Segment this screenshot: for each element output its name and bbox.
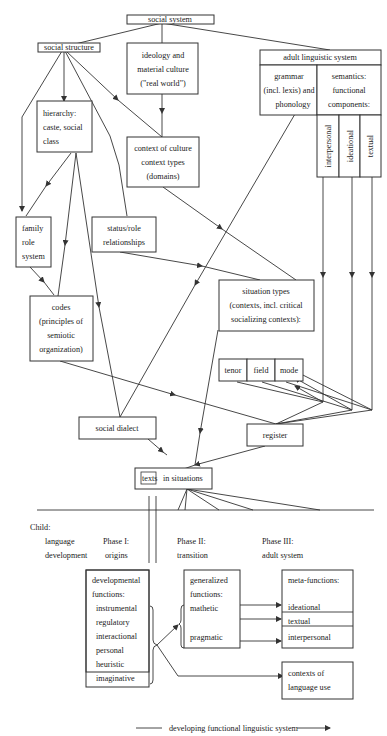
- svg-text:components:: components:: [328, 100, 370, 109]
- svg-text:imaginative: imaginative: [96, 674, 135, 683]
- svg-text:(incl. lexis) and: (incl. lexis) and: [263, 86, 314, 95]
- svg-text:("real world"): ("real world"): [140, 79, 186, 88]
- svg-text:(domains): (domains): [146, 172, 179, 181]
- svg-text:social structure: social structure: [44, 43, 94, 52]
- node-social-system: social system: [127, 15, 214, 24]
- node-generalized-functions: generalized functions: mathetic pragmati…: [184, 570, 240, 648]
- svg-text:transition: transition: [177, 551, 208, 560]
- svg-text:language use: language use: [288, 683, 331, 692]
- svg-text:functional: functional: [332, 86, 366, 95]
- svg-text:heuristic: heuristic: [96, 660, 125, 669]
- svg-text:pragmatic: pragmatic: [190, 633, 223, 642]
- svg-text:ideology and: ideology and: [142, 51, 185, 60]
- svg-text:material culture: material culture: [137, 65, 189, 74]
- svg-text:interpersonal: interpersonal: [288, 633, 331, 642]
- svg-text:language: language: [45, 537, 75, 546]
- node-meta-functions: meta-functions: ideational textual inter…: [282, 570, 353, 648]
- node-developmental-functions: developmental functions: instrumental re…: [86, 570, 149, 683]
- svg-text:organization): organization): [39, 345, 83, 354]
- svg-text:situation types: situation types: [242, 287, 290, 296]
- svg-text:hierarchy:: hierarchy:: [43, 109, 76, 118]
- svg-text:class: class: [43, 137, 59, 146]
- svg-text:semantics:: semantics:: [332, 72, 367, 81]
- svg-text:role: role: [22, 238, 35, 247]
- svg-text:texts: texts: [142, 474, 157, 483]
- svg-text:interactional: interactional: [96, 632, 138, 641]
- svg-text:relationships: relationships: [103, 238, 145, 247]
- svg-text:meta-functions:: meta-functions:: [288, 576, 339, 585]
- svg-text:mode: mode: [280, 366, 299, 375]
- svg-text:textual: textual: [288, 617, 311, 626]
- svg-text:system: system: [22, 252, 45, 261]
- node-social-structure: social structure: [38, 43, 100, 52]
- svg-text:Phase I:: Phase I:: [103, 537, 129, 546]
- svg-text:developmental: developmental: [92, 576, 141, 585]
- brace-developmental: [150, 606, 157, 684]
- svg-text:social dialect: social dialect: [96, 424, 140, 433]
- svg-text:origins: origins: [105, 551, 128, 560]
- svg-text:in situations: in situations: [163, 474, 203, 483]
- svg-text:register: register: [263, 431, 288, 440]
- svg-text:functions:: functions:: [92, 590, 125, 599]
- svg-text:adult linguistic system: adult linguistic system: [283, 53, 357, 62]
- svg-text:development: development: [45, 551, 88, 560]
- svg-text:functions:: functions:: [190, 590, 223, 599]
- svg-text:family: family: [22, 224, 44, 233]
- svg-text:phonology: phonology: [275, 100, 311, 109]
- svg-text:adult system: adult system: [262, 551, 304, 560]
- brace-generalized: [179, 605, 184, 648]
- sociolinguistic-diagram: social system social structure ideology …: [0, 0, 387, 736]
- svg-text:developing functional linguist: developing functional linguistic system: [169, 724, 299, 733]
- svg-text:socializing contexts):: socializing contexts):: [231, 315, 301, 324]
- svg-text:(contexts, incl. critical: (contexts, incl. critical: [229, 301, 303, 310]
- svg-text:Child:: Child:: [30, 523, 50, 532]
- svg-text:Phase II:: Phase II:: [177, 537, 206, 546]
- svg-text:Phase III:: Phase III:: [262, 537, 294, 546]
- svg-text:interpersonal: interpersonal: [324, 124, 333, 167]
- svg-text:textual: textual: [366, 134, 375, 157]
- node-register: register: [247, 424, 303, 446]
- footer-developing-system: developing functional linguistic system: [136, 724, 330, 733]
- svg-text:ideational: ideational: [288, 603, 321, 612]
- node-ideology: ideology and material culture ("real wor…: [127, 43, 198, 94]
- svg-text:semiotic: semiotic: [47, 331, 75, 340]
- svg-text:field: field: [253, 366, 268, 375]
- svg-text:ideational: ideational: [346, 129, 355, 162]
- node-hierarchy: hierarchy: caste, social class: [37, 101, 92, 152]
- svg-text:social system: social system: [148, 15, 193, 24]
- node-contexts-of-language-use: contexts of language use: [282, 662, 353, 699]
- node-family-role-system: family role system: [16, 217, 51, 267]
- svg-text:(principles of: (principles of: [39, 317, 83, 326]
- svg-text:caste, social: caste, social: [43, 123, 83, 132]
- node-adult-linguistic-system: adult linguistic system grammar (incl. l…: [260, 50, 381, 177]
- node-texts-in-situations: texts in situations: [135, 468, 212, 489]
- svg-text:mathetic: mathetic: [190, 604, 219, 613]
- svg-text:codes: codes: [52, 303, 71, 312]
- svg-text:generalized: generalized: [190, 576, 228, 585]
- node-status-role: status/role relationships: [92, 217, 156, 252]
- svg-text:grammar: grammar: [274, 72, 304, 81]
- node-codes: codes (principles of semiotic organizati…: [30, 296, 93, 361]
- svg-text:tenor: tenor: [225, 366, 242, 375]
- svg-text:contexts of: contexts of: [288, 669, 324, 678]
- svg-text:instrumental: instrumental: [96, 604, 138, 613]
- svg-text:context of culture: context of culture: [134, 144, 192, 153]
- node-context-of-culture: context of culture context types (domain…: [127, 137, 199, 187]
- svg-text:context types: context types: [141, 158, 184, 167]
- svg-text:personal: personal: [96, 646, 124, 655]
- child-development-labels: Child: language development Phase I: ori…: [30, 523, 304, 560]
- node-tenor-field-mode: tenor field mode: [219, 359, 303, 381]
- node-social-dialect: social dialect: [79, 417, 156, 439]
- node-situation-types: situation types (contexts, incl. critica…: [219, 280, 314, 331]
- svg-text:status/role: status/role: [107, 224, 141, 233]
- svg-text:regulatory: regulatory: [96, 618, 131, 627]
